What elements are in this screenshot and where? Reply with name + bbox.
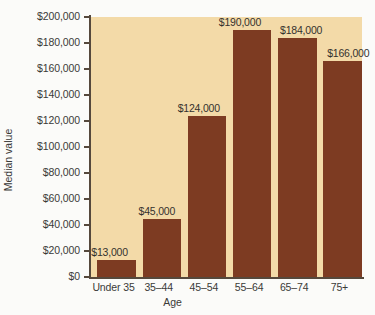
x-axis-tick-label: 65–74 <box>272 281 317 293</box>
y-axis-tick <box>84 16 90 18</box>
bar-value-label: $13,000 <box>91 246 128 258</box>
y-axis-tick-label: $0 <box>69 270 80 282</box>
y-axis-tick <box>84 250 90 252</box>
bar-value-label: $190,000 <box>219 16 261 28</box>
bar-value-label: $184,000 <box>280 24 322 36</box>
y-axis-tick <box>84 68 90 70</box>
y-axis-tick <box>84 276 90 278</box>
x-axis-tick-label: 55–64 <box>227 281 272 293</box>
bar-value-label: $124,000 <box>178 102 220 114</box>
y-axis-tick <box>84 172 90 174</box>
x-axis-tick-label: 45–54 <box>181 281 226 293</box>
bars-group <box>91 17 362 277</box>
x-axis-tick-label: 75+ <box>317 281 362 293</box>
bar-value-label: $45,000 <box>139 205 176 217</box>
y-axis-tick <box>84 224 90 226</box>
bar <box>233 30 272 277</box>
x-axis-title: Age <box>0 296 375 308</box>
x-axis-title-text: Age <box>163 296 182 308</box>
bar <box>188 116 227 277</box>
y-axis-title: Median value <box>2 129 14 191</box>
y-axis-tick-label: $40,000 <box>43 218 80 230</box>
y-axis-tick-label: $160,000 <box>37 62 80 74</box>
y-axis-tick <box>84 198 90 200</box>
y-axis-tick-label: $180,000 <box>37 36 80 48</box>
y-axis-tick <box>84 94 90 96</box>
y-axis-tick-label: $120,000 <box>37 114 80 126</box>
y-axis-tick <box>84 120 90 122</box>
bar-chart-figure: $0$20,000$40,000$60,000$80,000$100,000$1… <box>0 0 375 315</box>
x-axis-tick-label: Under 35 <box>91 281 136 293</box>
bar <box>278 38 317 277</box>
bar <box>323 61 362 277</box>
bar <box>143 219 182 278</box>
y-axis-tick <box>84 42 90 44</box>
y-axis-tick-label: $140,000 <box>37 88 80 100</box>
bar-value-label: $166,000 <box>327 47 369 59</box>
x-axis-tick-label: 35–44 <box>136 281 181 293</box>
y-axis-tick-label: $80,000 <box>43 166 80 178</box>
y-axis-tick-label: $60,000 <box>43 192 80 204</box>
bar <box>97 260 136 277</box>
y-axis-tick-label: $20,000 <box>43 244 80 256</box>
y-axis-tick <box>84 146 90 148</box>
y-axis-tick-label: $100,000 <box>37 140 80 152</box>
x-axis-line <box>89 277 364 279</box>
y-axis-tick-label: $200,000 <box>37 10 80 22</box>
